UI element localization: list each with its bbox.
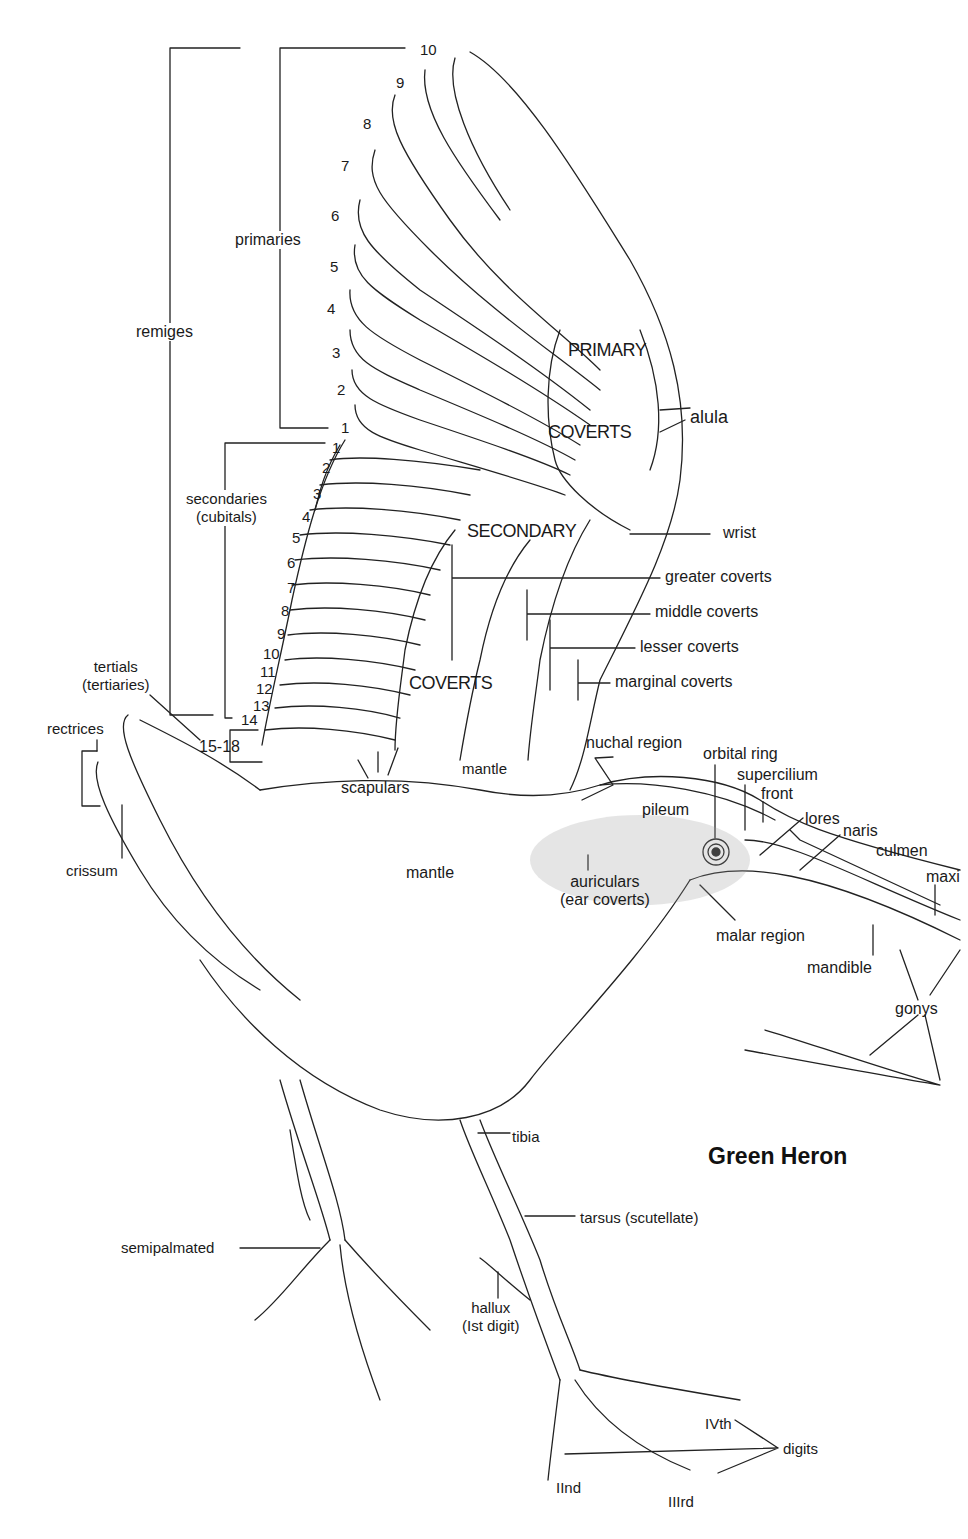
label-semipalmated: semipalmated: [121, 1239, 214, 1257]
label-naris: naris: [843, 822, 878, 840]
label-mantle-upper: mantle: [462, 760, 507, 778]
label-secondary-coverts-top: SECONDARY: [467, 521, 576, 542]
secondary-number-9: 9: [277, 626, 285, 642]
label-alula: alula: [690, 408, 728, 426]
primary-number-4: 4: [327, 301, 335, 317]
secondary-feathers: [265, 458, 480, 740]
label-auriculars-line2: (ear coverts): [560, 891, 650, 909]
label-secondaries-line2: (cubitals): [186, 508, 267, 526]
label-primary-coverts-bottom: COVERTS: [548, 422, 631, 443]
label-secondaries: secondaries (cubitals): [186, 490, 267, 526]
label-tertials-line2: (tertiaries): [82, 676, 150, 694]
label-digits: digits: [783, 1440, 818, 1458]
label-hallux-line2: (Ist digit): [462, 1317, 520, 1335]
label-middle-coverts: middle coverts: [655, 603, 758, 621]
secondary-number-4: 4: [302, 509, 310, 525]
primary-number-9: 9: [396, 75, 404, 91]
alula-leaders: [660, 408, 690, 432]
label-supercilium: supercilium: [737, 766, 818, 784]
label-malar-region: malar region: [716, 927, 805, 945]
label-mandible: mandible: [807, 959, 872, 977]
label-wrist: wrist: [723, 524, 756, 542]
secondary-number-14: 14: [241, 712, 258, 728]
label-tertials-range: 15-18: [199, 738, 240, 756]
label-maxilla: maxi: [926, 868, 960, 886]
label-greater-coverts: greater coverts: [665, 568, 772, 586]
primary-number-3: 3: [332, 345, 340, 361]
secondary-number-6: 6: [287, 555, 295, 571]
secondary-number-8: 8: [281, 603, 289, 619]
label-culmen: culmen: [876, 842, 928, 860]
label-rectrices: rectrices: [47, 720, 104, 738]
label-orbital-ring: orbital ring: [703, 745, 778, 763]
label-gonys: gonys: [895, 1000, 938, 1018]
label-secondaries-line1: secondaries: [186, 490, 267, 508]
secondary-number-12: 12: [256, 681, 273, 697]
remiges-bracket: [170, 48, 240, 715]
primary-number-1: 1: [341, 420, 349, 436]
label-pileum: pileum: [642, 801, 689, 819]
label-tertials-line1: tertials: [82, 658, 150, 676]
primary-number-6: 6: [331, 208, 339, 224]
label-primaries: primaries: [234, 231, 302, 249]
label-auriculars-line1: auriculars: [560, 873, 650, 891]
naris-leader: [800, 835, 840, 870]
label-scapulars: scapulars: [341, 779, 409, 797]
label-tarsus: tarsus (scutellate): [580, 1209, 698, 1227]
label-tertials: tertials (tertiaries): [82, 658, 150, 694]
label-crissum: crissum: [66, 862, 118, 880]
label-digit-iv: IVth: [705, 1415, 732, 1433]
nuchal-leader: [582, 757, 613, 800]
diagram-title: Green Heron: [708, 1143, 847, 1170]
primary-number-10: 10: [420, 42, 437, 58]
label-remiges: remiges: [135, 323, 194, 341]
label-digit-ii: IInd: [556, 1479, 581, 1497]
label-auriculars: auriculars (ear coverts): [560, 873, 650, 909]
marginal-coverts-leader: [578, 660, 610, 700]
tertials-leader: [150, 695, 200, 740]
secondary-number-7: 7: [287, 580, 295, 596]
label-lores: lores: [805, 810, 840, 828]
secondary-number-5: 5: [292, 530, 300, 546]
label-tibia: tibia: [512, 1128, 540, 1146]
digits-leaders: [565, 1420, 778, 1473]
label-front: front: [761, 785, 793, 803]
primary-number-8: 8: [363, 116, 371, 132]
green-heron-topography-diagram: remiges primaries secondaries (cubitals)…: [0, 0, 968, 1539]
label-primary-coverts-top: PRIMARY: [568, 340, 646, 361]
label-hallux-line1: hallux: [462, 1299, 520, 1317]
secondary-number-11: 11: [260, 664, 276, 680]
label-lesser-coverts: lesser coverts: [640, 638, 739, 656]
label-hallux: hallux (Ist digit): [462, 1299, 520, 1335]
label-mantle-body: mantle: [406, 864, 454, 882]
primary-number-5: 5: [330, 259, 338, 275]
label-digit-iii: IIIrd: [668, 1493, 694, 1511]
primary-number-2: 2: [337, 382, 345, 398]
label-marginal-coverts: marginal coverts: [615, 673, 732, 691]
primary-number-7: 7: [341, 158, 349, 174]
label-nuchal-region: nuchal region: [586, 734, 682, 752]
secondary-number-10: 10: [263, 646, 280, 662]
label-secondary-coverts-bottom: COVERTS: [409, 673, 492, 694]
secondary-number-2: 2: [322, 460, 330, 476]
secondary-number-1: 1: [332, 440, 340, 456]
secondary-number-3: 3: [313, 486, 321, 502]
